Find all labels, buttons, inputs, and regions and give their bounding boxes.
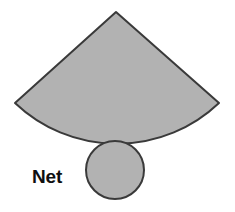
net-label: Net xyxy=(32,166,62,188)
cone-base-circle-shape xyxy=(86,141,144,199)
